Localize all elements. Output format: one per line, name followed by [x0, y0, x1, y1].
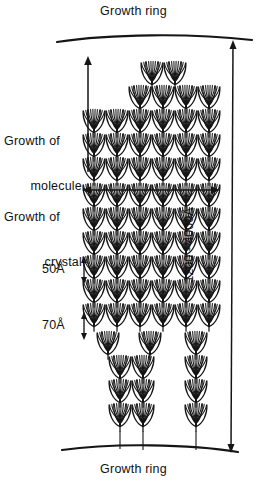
motif-row	[109, 403, 207, 431]
growth-of-molecule-line-1: Growth of	[4, 134, 82, 149]
motif-row	[83, 303, 220, 331]
growth-of-crystal-line-1: Growth of	[4, 210, 82, 225]
motif-row	[129, 85, 220, 113]
motif-row	[83, 157, 220, 185]
motif-row	[83, 231, 220, 259]
motif-row	[109, 355, 207, 383]
motif-row	[109, 379, 207, 407]
motif-row	[83, 133, 220, 161]
total-thickness-label: 1200 - 4000Å	[182, 207, 196, 282]
bottom-growth-ring	[62, 445, 238, 452]
motif-row	[141, 61, 186, 89]
motif-row	[97, 331, 207, 359]
crystal-body	[83, 61, 220, 450]
total-thickness-arrow	[228, 40, 237, 453]
top-growth-ring	[57, 35, 252, 42]
motif-row	[83, 109, 220, 137]
spacing-70-label: 70Å	[42, 318, 65, 333]
motif-row	[83, 207, 220, 235]
motif-row	[83, 255, 220, 283]
spacing-50-label: 50Å	[42, 262, 65, 277]
bottom-growth-ring-label: Growth ring	[0, 462, 267, 477]
spacing-70-arrow	[81, 312, 87, 340]
motif-row	[83, 183, 220, 211]
top-growth-ring-label: Growth ring	[0, 4, 267, 19]
motif-row	[83, 279, 220, 307]
